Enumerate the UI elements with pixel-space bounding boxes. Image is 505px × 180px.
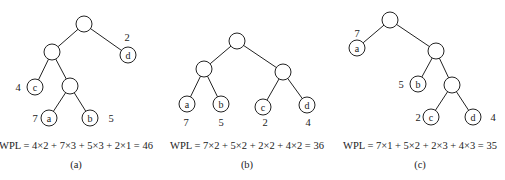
internal-node bbox=[444, 77, 460, 93]
leaf-weight-d: 4 bbox=[490, 112, 496, 123]
leaf-label-a: a bbox=[355, 43, 360, 54]
internal-node bbox=[275, 64, 291, 80]
leaf-weight-a: 7 bbox=[32, 113, 37, 124]
internal-node bbox=[62, 78, 78, 94]
tree-c: a 7 b 5 c 2 d 4 WPL = 7×1 + 5×2 + 2×3 + … bbox=[343, 12, 497, 171]
wpl-formula-c: WPL = 7×1 + 5×2 + 2×3 + 4×3 = 35 bbox=[343, 140, 497, 151]
leaf-weight-d: 2 bbox=[124, 32, 129, 43]
internal-node bbox=[428, 43, 444, 59]
leaf-label-d: d bbox=[126, 50, 131, 61]
internal-node bbox=[196, 61, 212, 77]
leaf-label-b: b bbox=[416, 79, 421, 90]
leaf-label-c: c bbox=[33, 82, 38, 93]
internal-node-root bbox=[76, 16, 92, 32]
leaf-weight-c: 2 bbox=[415, 112, 420, 123]
leaf-label-d: d bbox=[471, 112, 476, 123]
leaf-weight-a: 7 bbox=[354, 28, 359, 39]
leaf-weight-d: 4 bbox=[305, 117, 311, 128]
leaf-weight-b: 5 bbox=[398, 79, 403, 90]
caption-b: (b) bbox=[241, 159, 254, 171]
wpl-formula-b: WPL = 7×2 + 5×2 + 2×2 + 4×2 = 36 bbox=[170, 140, 324, 151]
leaf-weight-c: 2 bbox=[262, 117, 267, 128]
tree-a: d 2 c 4 a 7 b 5 WPL = 4×2 + 7×3 + 5×3 + … bbox=[0, 16, 153, 171]
leaf-weight-a: 7 bbox=[183, 117, 188, 128]
leaf-weight-b: 5 bbox=[108, 113, 113, 124]
caption-c: (c) bbox=[414, 159, 426, 171]
leaf-label-d: d bbox=[305, 100, 310, 111]
tree-b: a 7 b 5 c 2 d 4 WPL = 7×2 + 5×2 + 2×2 + … bbox=[170, 33, 324, 171]
leaf-label-c: c bbox=[261, 102, 266, 113]
leaf-weight-c: 4 bbox=[15, 82, 21, 93]
leaf-label-a: a bbox=[185, 99, 190, 110]
leaf-label-a: a bbox=[47, 113, 52, 124]
internal-node-root bbox=[382, 12, 398, 28]
wpl-diagram: d 2 c 4 a 7 b 5 WPL = 4×2 + 7×3 + 5×3 + … bbox=[0, 0, 505, 180]
leaf-label-b: b bbox=[219, 99, 224, 110]
internal-node-root bbox=[229, 33, 245, 49]
leaf-weight-b: 5 bbox=[218, 117, 223, 128]
internal-node bbox=[44, 44, 60, 60]
leaf-label-b: b bbox=[88, 113, 93, 124]
caption-a: (a) bbox=[70, 159, 82, 171]
leaf-label-c: c bbox=[429, 112, 434, 123]
wpl-formula-a: WPL = 4×2 + 7×3 + 5×3 + 2×1 = 46 bbox=[0, 140, 153, 151]
